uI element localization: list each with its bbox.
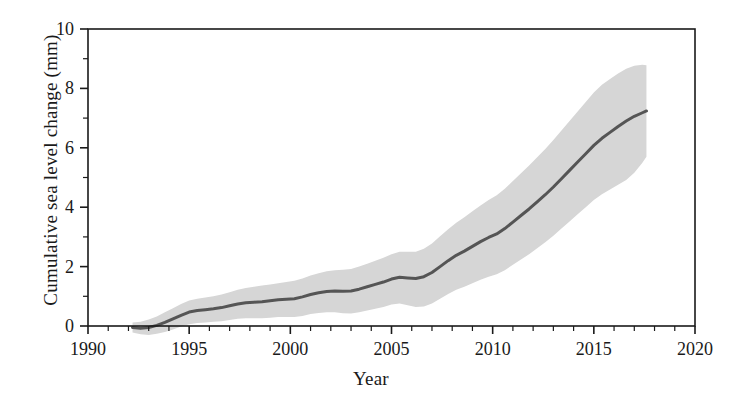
svg-text:2005: 2005 (374, 339, 410, 359)
svg-text:2015: 2015 (576, 339, 612, 359)
uncertainty-band (133, 65, 647, 335)
svg-text:2000: 2000 (272, 339, 308, 359)
svg-text:1995: 1995 (171, 339, 207, 359)
figure-container: 1990199520002005201020152020 0246810 Cum… (0, 0, 742, 413)
y-axis-ticks (80, 29, 88, 326)
svg-text:2020: 2020 (677, 339, 713, 359)
x-axis-label: Year (0, 368, 742, 390)
svg-text:2010: 2010 (475, 339, 511, 359)
sea-level-chart: 1990199520002005201020152020 0246810 (0, 0, 742, 413)
svg-text:1990: 1990 (70, 339, 106, 359)
x-axis-tick-labels: 1990199520002005201020152020 (70, 339, 713, 359)
y-axis-label: Cumulative sea level change (mm) (34, 20, 68, 320)
